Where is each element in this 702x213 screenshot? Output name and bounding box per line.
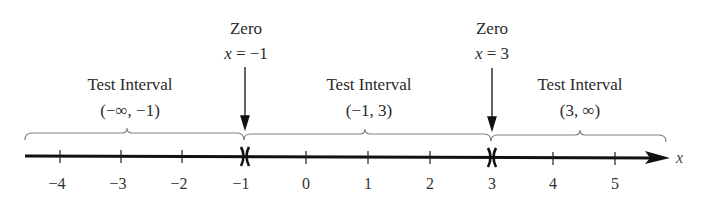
brace-interval-1	[25, 128, 244, 140]
tick-label: −1	[232, 176, 249, 192]
interval-1-title: Test Interval	[87, 76, 172, 93]
tick-label: 3	[488, 176, 496, 192]
tick-label: 5	[611, 176, 619, 192]
axis	[25, 151, 670, 164]
tick-label: 2	[426, 176, 434, 192]
equation-variable: x	[475, 44, 483, 63]
arrow-head-icon	[488, 117, 496, 130]
tick-label: −4	[48, 176, 65, 192]
tick-label: 0	[302, 176, 310, 192]
tick-label: 1	[364, 176, 372, 192]
brace-interval-3	[491, 130, 666, 142]
zero-label-equation: x = −1	[224, 45, 268, 62]
tick-label: 4	[549, 176, 557, 192]
equation-value: = 3	[482, 44, 509, 63]
interval-2-notation: (−1, 3)	[346, 102, 392, 119]
tick-label: −2	[170, 176, 187, 192]
interval-3-notation: (3, ∞)	[560, 102, 600, 119]
zero-label-equation: x = 3	[475, 45, 509, 62]
interval-braces	[25, 128, 666, 142]
arrow-head-icon	[241, 116, 249, 129]
axis-variable-label: x	[676, 149, 683, 167]
interval-1-notation: (−∞, −1)	[100, 102, 160, 119]
zero-label-title: Zero	[476, 20, 508, 37]
equation-value: = −1	[232, 44, 268, 63]
brace-interval-2	[244, 129, 491, 141]
interval-3-title: Test Interval	[537, 76, 622, 93]
interval-2-title: Test Interval	[326, 76, 411, 93]
number-line-diagram: Zero x = −1 Zero x = 3 Test Interval (−∞…	[0, 0, 702, 213]
equation-variable: x	[224, 44, 232, 63]
tick-label: −3	[109, 176, 126, 192]
zero-label-title: Zero	[230, 20, 262, 37]
